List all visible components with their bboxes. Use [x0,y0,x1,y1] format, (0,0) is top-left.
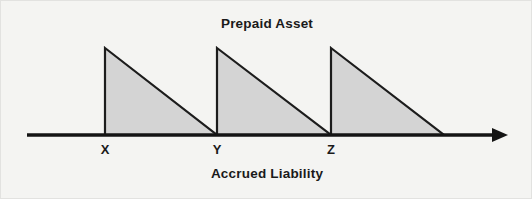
tick-label-x: X [101,142,110,157]
sawtooth-diagram: Prepaid Asset X Y Z Accrued Liability [1,1,532,199]
tick-label-y: Y [213,142,222,157]
axis-arrowhead-icon [492,128,508,142]
sawtooth-cycle-1 [105,48,217,135]
sawtooth-cycle-2 [217,48,331,135]
sawtooth-cycle-3 [331,48,444,135]
tick-label-z: Z [327,142,335,157]
top-caption-prepaid-asset: Prepaid Asset [221,16,313,31]
bottom-caption-accrued-liability: Accrued Liability [211,166,323,181]
figure-panel: Prepaid Asset X Y Z Accrued Liability [0,0,532,199]
